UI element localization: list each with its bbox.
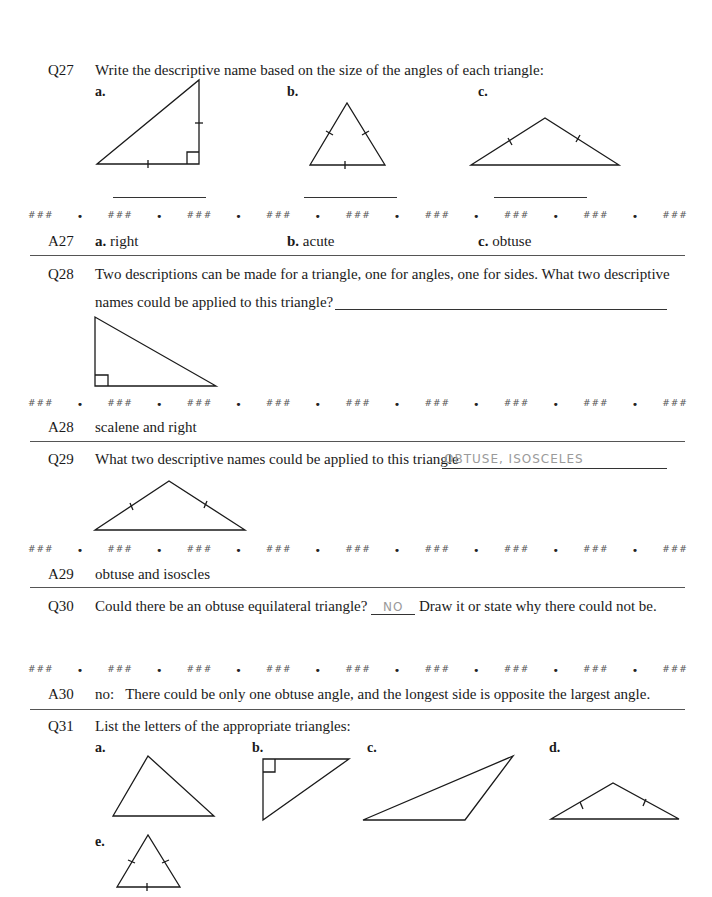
- triangle-c: [363, 756, 513, 820]
- triangle-e: [117, 835, 180, 891]
- triangle-b: [263, 759, 349, 820]
- triangle-a: [113, 756, 214, 816]
- q31-triangles: [0, 0, 712, 897]
- triangle-d: [551, 783, 679, 819]
